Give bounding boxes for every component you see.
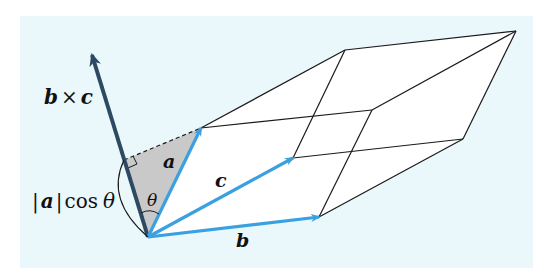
- vector-c-label: c: [215, 169, 227, 191]
- vector-b-label: b: [236, 229, 249, 251]
- height-label: |a|cosθ: [32, 189, 115, 214]
- normal-vector-arrow: [92, 55, 148, 237]
- parallelepiped-diagram: b×c a c b θ |a|cosθ: [0, 0, 556, 273]
- angle-theta-label: θ: [147, 190, 157, 210]
- normal-vector-label: b×c: [44, 85, 93, 109]
- vector-a-label: a: [163, 150, 175, 172]
